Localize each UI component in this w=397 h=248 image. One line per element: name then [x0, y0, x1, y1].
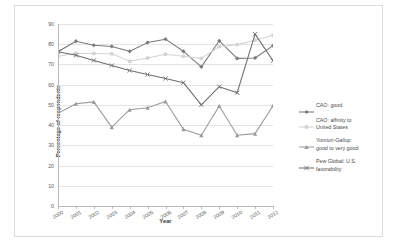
data-point: [92, 52, 96, 56]
data-point: [145, 41, 149, 45]
y-tick-label: 80: [48, 41, 54, 47]
data-point: [305, 125, 309, 129]
legend-key-pew-global: [299, 158, 314, 166]
x-tick-mark: [201, 206, 202, 209]
legend-key-cao-affinity: [299, 117, 314, 125]
x-tick-mark: [183, 206, 184, 209]
data-point: [235, 43, 239, 47]
data-point: [217, 44, 221, 48]
y-tick-label: 60: [48, 82, 54, 88]
x-tick-mark: [219, 206, 220, 209]
y-tick-label: 50: [48, 102, 54, 108]
data-point: [146, 56, 150, 60]
y-axis-line: [58, 24, 59, 206]
data-point: [199, 103, 203, 107]
y-tick-label: 70: [48, 61, 54, 67]
series-lines: [58, 24, 273, 206]
legend-item[interactable]: Pew Global: U.S. favorability: [299, 158, 385, 172]
legend-label: CAO: good: [316, 102, 342, 109]
x-tick-mark: [255, 206, 256, 209]
x-tick-mark: [94, 206, 95, 209]
x-tick-mark: [130, 206, 131, 209]
x-tick-mark: [237, 206, 238, 209]
data-point: [304, 110, 308, 114]
data-point: [271, 59, 273, 63]
data-point: [164, 52, 168, 56]
legend-item[interactable]: Yomiuri-Gallup: good to very good: [299, 137, 385, 151]
y-tick-label: 30: [48, 142, 54, 148]
x-tick-mark: [273, 206, 274, 209]
data-point: [271, 104, 273, 108]
y-tick-label: 10: [48, 183, 54, 189]
x-tick-mark: [166, 206, 167, 209]
legend-key-cao-good: [299, 102, 314, 110]
data-point: [128, 59, 132, 63]
plot-area: 0102030405060708090 20002001200220032004…: [58, 24, 273, 206]
data-point: [271, 33, 273, 37]
data-point: [110, 44, 114, 48]
data-point: [199, 56, 203, 60]
legend-item[interactable]: CAO: affinity to United States: [299, 117, 385, 131]
x-tick-mark: [148, 206, 149, 209]
y-tick-label: 0: [51, 203, 54, 209]
x-tick-mark: [112, 206, 113, 209]
legend-item[interactable]: CAO: good: [299, 102, 385, 110]
data-point: [181, 54, 185, 58]
legend-label: Pew Global: U.S. favorability: [316, 158, 356, 172]
legend-key-yomiuri-gallup: [299, 137, 314, 145]
legend-label: Yomiuri-Gallup: good to very good: [316, 137, 358, 151]
chart-frame: Percentage of respondents Year 010203040…: [14, 5, 383, 237]
y-tick-label: 90: [48, 21, 54, 27]
data-point: [110, 52, 114, 56]
chart-legend: CAO: good CAO: affinity to United States…: [299, 102, 385, 179]
y-tick-label: 40: [48, 122, 54, 128]
x-tick-mark: [58, 206, 59, 209]
data-point: [128, 49, 132, 53]
y-tick-label: 20: [48, 163, 54, 169]
legend-label: CAO: affinity to United States: [316, 117, 352, 131]
data-point: [217, 104, 221, 108]
x-tick-mark: [76, 206, 77, 209]
series-yomiuri-gallup-good-to-very-good: [58, 99, 273, 137]
data-point: [92, 43, 96, 47]
